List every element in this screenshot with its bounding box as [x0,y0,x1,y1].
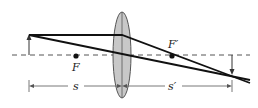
object-distance-label: s [73,80,79,93]
object-arrow [27,34,32,55]
image-arrow [230,55,235,75]
dimension-s-prime [122,80,232,92]
focal-label-F: F [71,61,80,74]
focal-point-F-prime-dot [169,53,174,58]
focal-label-F-prime: F′ [167,38,179,51]
image-distance-label: s′ [168,80,177,93]
lens-ray-diagram: F F′ s s′ [0,0,258,108]
focal-point-F-dot [73,53,78,58]
